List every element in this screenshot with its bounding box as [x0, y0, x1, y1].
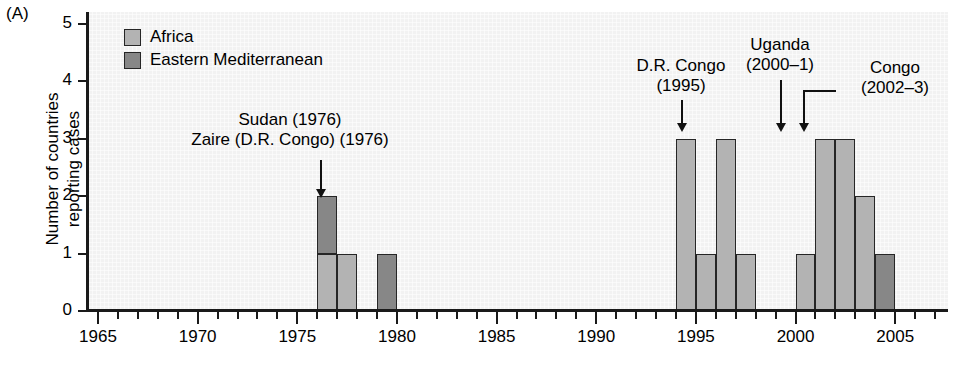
- x-axis-minor-tick: [675, 311, 677, 319]
- x-axis-major-tick: [595, 311, 597, 324]
- bar-2002-africa: [835, 139, 855, 311]
- x-axis-minor-tick: [635, 311, 637, 319]
- y-axis-tick: [78, 253, 86, 255]
- x-axis-major-tick: [795, 311, 797, 324]
- x-axis-minor-tick: [356, 311, 358, 319]
- bar-1979-eastern-mediterranean: [377, 254, 397, 311]
- x-axis-minor-tick: [117, 311, 119, 319]
- x-axis-minor-tick: [755, 311, 757, 319]
- y-axis-tick-label: 1: [46, 244, 72, 261]
- x-axis-major-tick: [695, 311, 697, 324]
- x-axis-minor-tick: [575, 311, 577, 319]
- legend-swatch-africa: [124, 29, 141, 46]
- x-axis-minor-tick: [316, 311, 318, 319]
- panel-label: (A): [6, 4, 29, 24]
- x-axis-tick-label: 1980: [367, 327, 427, 346]
- y-axis-tick-label: 5: [46, 14, 72, 31]
- legend: Africa Eastern Mediterranean: [124, 26, 323, 72]
- bar-2000-africa: [796, 254, 816, 311]
- x-axis-minor-tick: [555, 311, 557, 319]
- x-axis-major-tick: [396, 311, 398, 324]
- y-axis-tick: [78, 310, 86, 312]
- bar-1977-africa: [337, 254, 357, 311]
- x-axis-minor-tick: [137, 311, 139, 319]
- x-axis-minor-tick: [655, 311, 657, 319]
- legend-item-eastern-mediterranean: Eastern Mediterranean: [124, 49, 323, 71]
- x-axis-minor-tick: [715, 311, 717, 319]
- y-axis-tick-label: 4: [46, 71, 72, 88]
- x-axis-minor-tick: [336, 311, 338, 319]
- x-axis-minor-tick: [834, 311, 836, 319]
- bar-1997-africa: [736, 254, 756, 311]
- annotation-congo-2002-3: Congo (2002–3): [835, 58, 955, 98]
- x-axis-minor-tick: [217, 311, 219, 319]
- x-axis-tick-label: 1975: [267, 327, 327, 346]
- x-axis-minor-tick: [775, 311, 777, 319]
- legend-label-eastern-mediterranean: Eastern Mediterranean: [150, 51, 323, 69]
- y-axis-tick: [78, 195, 86, 197]
- legend-swatch-eastern-mediterranean: [124, 52, 141, 69]
- x-axis-minor-tick: [874, 311, 876, 319]
- x-axis-minor-tick: [615, 311, 617, 319]
- x-axis-tick-label: 1995: [666, 327, 726, 346]
- bar-1996-africa: [716, 139, 736, 311]
- y-axis-tick-label: 3: [46, 129, 72, 146]
- y-axis-tick: [78, 23, 86, 25]
- x-axis-minor-tick: [814, 311, 816, 319]
- x-axis-major-tick: [296, 311, 298, 324]
- y-axis-tick: [78, 80, 86, 82]
- x-axis-minor-tick: [535, 311, 537, 319]
- x-axis-tick-label: 2000: [766, 327, 826, 346]
- x-axis-minor-tick: [914, 311, 916, 319]
- y-axis-tick-label: 2: [46, 186, 72, 203]
- x-axis-major-tick: [496, 311, 498, 324]
- bar-1976-eastern-mediterranean: [317, 196, 337, 253]
- y-axis-tick-label: 0: [46, 301, 72, 318]
- x-axis-minor-tick: [177, 311, 179, 319]
- x-axis-major-tick: [197, 311, 199, 324]
- x-axis-tick-label: 1970: [168, 327, 228, 346]
- bar-2003-africa: [855, 196, 875, 311]
- x-axis-major-tick: [97, 311, 99, 324]
- x-axis-minor-tick: [934, 311, 936, 319]
- x-axis-minor-tick: [237, 311, 239, 319]
- x-axis-minor-tick: [735, 311, 737, 319]
- x-axis-minor-tick: [516, 311, 518, 319]
- x-axis-tick-label: 2005: [865, 327, 925, 346]
- x-axis-tick-label: 1985: [467, 327, 527, 346]
- x-axis-minor-tick: [416, 311, 418, 319]
- x-axis-minor-tick: [376, 311, 378, 319]
- legend-item-africa: Africa: [124, 26, 323, 48]
- bar-2001-africa: [815, 139, 835, 311]
- x-axis-minor-tick: [854, 311, 856, 319]
- bar-1995-africa: [696, 254, 716, 311]
- x-axis-minor-tick: [476, 311, 478, 319]
- x-axis-major-tick: [894, 311, 896, 324]
- y-axis-tick: [78, 138, 86, 140]
- bar-1994-africa: [676, 139, 696, 311]
- y-axis-line: [86, 12, 89, 312]
- annotation-sudan-zaire-1976: Sudan (1976) Zaire (D.R. Congo) (1976): [160, 110, 420, 150]
- x-axis-minor-tick: [256, 311, 258, 319]
- bar-2004-eastern-mediterranean: [875, 254, 895, 311]
- x-axis-minor-tick: [276, 311, 278, 319]
- x-axis-minor-tick: [157, 311, 159, 319]
- x-axis-minor-tick: [456, 311, 458, 319]
- x-axis-tick-label: 1990: [566, 327, 626, 346]
- legend-label-africa: Africa: [150, 28, 193, 46]
- chart-figure: (A) Number of countries reporting cases …: [0, 0, 958, 373]
- x-axis-minor-tick: [436, 311, 438, 319]
- x-axis-tick-label: 1965: [68, 327, 128, 346]
- annotation-uganda-2000-1: Uganda (2000–1): [705, 35, 855, 75]
- bar-1976-africa: [317, 254, 337, 311]
